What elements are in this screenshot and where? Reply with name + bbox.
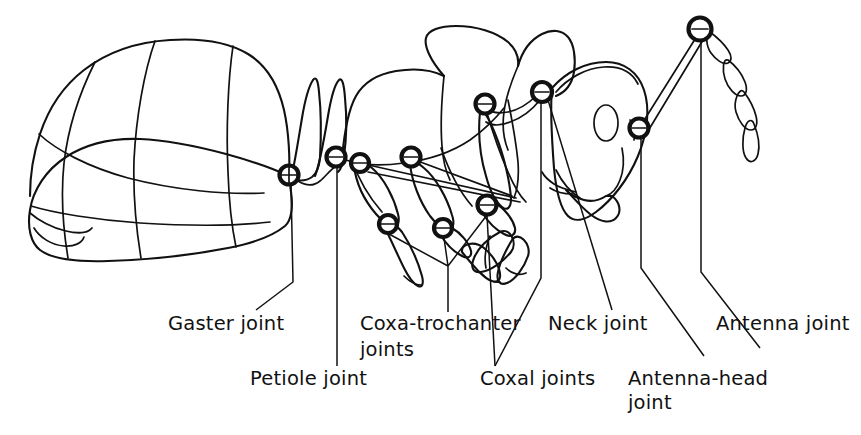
petiole-group xyxy=(291,79,346,185)
gaster-outline xyxy=(29,139,292,261)
label-gaster-joint: Gaster joint xyxy=(168,312,284,335)
label-antenna-joint: Antenna joint xyxy=(716,312,850,335)
labels-group: Gaster joint Petiole joint Coxa-trochant… xyxy=(168,312,850,414)
propodeum-outline xyxy=(342,70,444,158)
label-coxa-trochanter-joints: Coxa-trochanter xyxy=(360,312,521,335)
antenna-scape-upper xyxy=(643,36,697,122)
leader-neck-joint xyxy=(548,100,612,310)
joint-rings-group xyxy=(280,18,712,238)
ant-anatomy-diagram: Gaster joint Petiole joint Coxa-trochant… xyxy=(0,0,861,435)
leader-gaster-joint xyxy=(256,185,293,310)
mesosoma-group xyxy=(342,26,575,212)
label-coxal-joints: Coxal joints xyxy=(480,367,595,390)
propodeum-mesonotum-suture xyxy=(441,76,450,180)
gaster-outline-dorsal xyxy=(30,40,289,196)
gaster-segment-line-5 xyxy=(31,206,270,225)
label-neck-joint: Neck joint xyxy=(548,312,648,335)
clypeus-edge xyxy=(606,148,623,196)
mesonotum-outline xyxy=(426,26,519,76)
label-antenna-head-joint-line2: joint xyxy=(627,391,672,414)
leader-antenna-joint xyxy=(701,41,760,348)
compound-eye xyxy=(594,105,618,141)
mid-femur xyxy=(462,244,500,282)
label-coxa-trochanter-joints-line2: joints xyxy=(359,338,414,361)
label-petiole-joint: Petiole joint xyxy=(250,367,367,390)
gaster-segment-line-1 xyxy=(227,46,236,247)
gaster-segment-line-2 xyxy=(134,41,155,258)
gaster-segment-line-4 xyxy=(39,134,264,193)
gaster-tip-lobe xyxy=(34,228,84,246)
figure-canvas: Gaster joint Petiole joint Coxa-trochant… xyxy=(0,0,861,435)
coxa-strut-mid xyxy=(368,172,520,202)
antenna-scape-lower xyxy=(648,40,703,131)
fore-femur xyxy=(472,231,513,272)
label-antenna-head-joint: Antenna-head xyxy=(628,367,768,390)
postpetiole-node xyxy=(291,79,321,181)
gaster-group xyxy=(29,40,292,262)
head-group xyxy=(542,62,647,221)
head-capsule-outline xyxy=(551,62,647,220)
leader-antenna-head-joint xyxy=(641,138,704,356)
mesonotum-pronotum-suture xyxy=(503,66,518,150)
